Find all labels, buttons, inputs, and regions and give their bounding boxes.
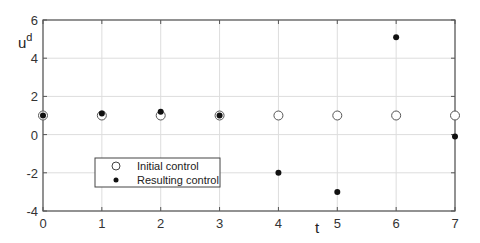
x-tick-label: 4 <box>275 216 282 231</box>
y-tick-label: 6 <box>31 13 38 28</box>
x-tick-label: 3 <box>216 216 223 231</box>
x-axis-label: t <box>315 219 320 236</box>
initial-control-marker <box>392 111 401 120</box>
scatter-chart: 01234567-4-20246 t ud Initial controlRes… <box>0 0 480 243</box>
x-tick-label: 2 <box>157 216 164 231</box>
legend: Initial controlResulting control <box>95 158 220 187</box>
x-tick-label: 0 <box>39 216 46 231</box>
x-tick-label: 6 <box>393 216 400 231</box>
resulting-control-marker <box>40 113 46 119</box>
resulting-control-marker <box>99 111 105 117</box>
x-tick-label: 7 <box>451 216 458 231</box>
x-tick-label: 1 <box>98 216 105 231</box>
resulting-control-marker <box>158 109 164 115</box>
initial-control-marker <box>451 111 460 120</box>
resulting-control-marker <box>452 134 458 140</box>
legend-filled-dot-icon <box>114 178 119 183</box>
y-label-superscript: d <box>26 31 32 43</box>
legend-open-circle-icon <box>112 162 120 170</box>
resulting-control-marker <box>393 34 399 40</box>
y-axis-label: ud <box>18 31 32 51</box>
initial-control-marker <box>274 111 283 120</box>
y-tick-label: 2 <box>31 89 38 104</box>
x-tick-label: 5 <box>334 216 341 231</box>
legend-label-resulting: Resulting control <box>137 174 219 186</box>
resulting-control-marker <box>217 113 223 119</box>
y-tick-label: 0 <box>31 128 38 143</box>
initial-control-marker <box>333 111 342 120</box>
y-tick-label: -2 <box>26 166 38 181</box>
resulting-control-marker <box>275 170 281 176</box>
legend-label-initial: Initial control <box>137 160 199 172</box>
y-tick-label: -4 <box>26 204 38 219</box>
resulting-control-marker <box>334 189 340 195</box>
y-tick-label: 4 <box>31 51 38 66</box>
axes: 01234567-4-20246 <box>26 13 458 231</box>
